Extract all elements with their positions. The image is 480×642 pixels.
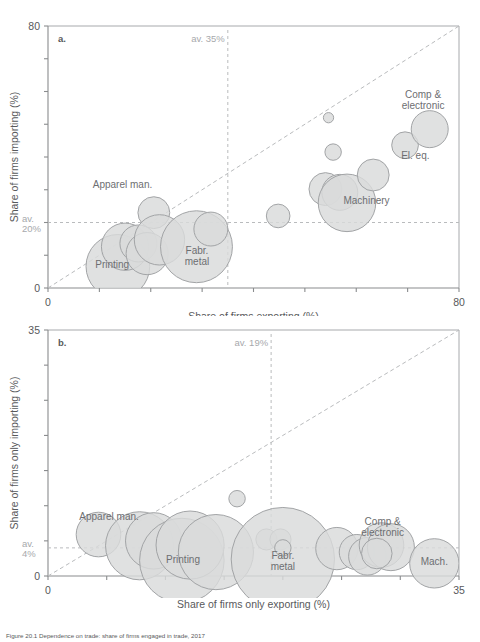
bubble-point — [362, 538, 393, 569]
panel-letter: a. — [58, 33, 66, 44]
bubble-layer — [76, 490, 459, 610]
data-label: Apparel man. — [93, 179, 152, 190]
data-label: El. eq. — [401, 150, 429, 161]
data-label: Mach. — [421, 556, 448, 567]
x-axis-max-label: 80 — [453, 296, 465, 308]
data-label: metal — [271, 561, 295, 572]
data-label: electronic — [402, 100, 445, 111]
chart-panel-a: 800080Share of firms exporting (%)Share … — [0, 0, 480, 316]
chart-panel-b: 350035Share of firms only exporting (%)S… — [0, 316, 480, 616]
data-label: Comp & — [405, 89, 441, 100]
bubble-layer — [86, 111, 448, 299]
panel-letter: b. — [58, 337, 66, 348]
data-label: Fabr. — [186, 245, 209, 256]
y-axis-min-label: 0 — [34, 282, 40, 294]
figure-caption: Figure 20.1 Dependence on trade: share o… — [6, 624, 474, 642]
x-axis-min-label: 0 — [45, 296, 51, 308]
y-axis-max-label: 35 — [28, 324, 40, 336]
data-label: Fabr. — [271, 550, 294, 561]
average-vertical-label: av. 35% — [191, 33, 225, 44]
average-vertical-label: av. 19% — [234, 337, 268, 348]
data-label: Printing — [95, 259, 129, 270]
average-horizontal-label: 4% — [22, 548, 36, 559]
data-label: Machinery — [343, 195, 389, 206]
x-axis-min-label: 0 — [45, 584, 51, 596]
x-axis-max-label: 35 — [453, 584, 465, 596]
bubble-point — [357, 159, 389, 191]
bubble-point — [194, 212, 228, 246]
bubble-point — [325, 144, 341, 160]
y-axis-title: Share of firms only importing (%) — [8, 377, 20, 530]
figure-caption-text: Figure 20.1 Dependence on trade: share o… — [6, 632, 205, 639]
bubble-point — [266, 204, 290, 228]
panel-a-plot: 800080Share of firms exporting (%)Share … — [0, 0, 480, 316]
average-horizontal-label: 20% — [22, 223, 42, 234]
bubble-point — [323, 113, 333, 123]
panel-b-plot: 350035Share of firms only exporting (%)S… — [0, 316, 480, 616]
data-label: metal — [185, 256, 209, 267]
y-axis-min-label: 0 — [34, 570, 40, 582]
x-axis-title: Share of firms only exporting (%) — [177, 598, 330, 610]
data-label: Comp & — [365, 516, 401, 527]
data-label: Apparel man. — [79, 511, 138, 522]
y-axis-title: Share of firms importing (%) — [8, 92, 20, 223]
bubble-point — [411, 111, 448, 148]
data-label: Printing — [166, 554, 200, 565]
data-label: electronic — [361, 527, 404, 538]
y-axis-max-label: 80 — [28, 20, 40, 32]
bubble-point — [229, 490, 245, 506]
